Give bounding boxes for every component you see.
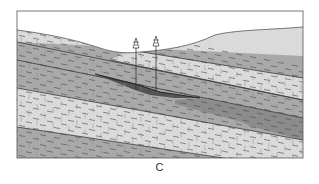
shale-dash	[117, 175, 123, 176]
shale-dash	[12, 179, 18, 180]
shale-dash	[313, 84, 319, 85]
shale-dash	[12, 9, 18, 10]
shale-dash	[103, 182, 109, 183]
shale-dash	[173, 176, 179, 177]
shale-dash	[61, 174, 67, 175]
shale-dash	[313, 144, 319, 145]
shale-dash	[33, 178, 39, 179]
shale-dash	[306, 128, 312, 129]
shale-dash	[257, 183, 263, 184]
shale-dash	[152, 177, 158, 178]
shale-dash	[313, 114, 319, 115]
shale-dash	[180, 183, 186, 184]
shale-dash	[187, 179, 193, 180]
shale-dash	[131, 178, 137, 179]
shale-dash	[243, 180, 249, 181]
shale-dash	[306, 108, 312, 109]
shale-dash	[89, 179, 95, 180]
shale-dash	[306, 98, 312, 99]
shale-dash	[40, 175, 46, 176]
shale-dash	[306, 138, 312, 139]
shale-dash	[159, 173, 165, 174]
shale-dash	[47, 181, 53, 182]
shale-dash	[75, 177, 81, 178]
shale-dash	[292, 175, 298, 176]
shale-dash	[313, 74, 319, 75]
shale-dash	[306, 88, 312, 89]
shale-dash	[208, 178, 214, 179]
shale-dash	[313, 94, 319, 95]
shale-dash	[285, 159, 291, 160]
shale-dash	[222, 181, 228, 182]
shale-dash	[124, 181, 130, 182]
shale-dash	[299, 181, 305, 182]
shale-dash	[236, 174, 242, 175]
shale-dash	[138, 174, 144, 175]
shale-dash	[313, 174, 319, 175]
shale-dash	[19, 175, 25, 176]
cross-section-diagram	[0, 0, 319, 184]
shale-dash	[250, 177, 256, 178]
shale-dash	[306, 148, 312, 149]
figure-caption: C	[0, 161, 319, 173]
shale-dash	[68, 180, 74, 181]
shale-dash	[201, 182, 207, 183]
shale-dash	[264, 179, 270, 180]
shale-dash	[313, 124, 319, 125]
shale-dash	[306, 118, 312, 119]
shale-dash	[229, 177, 235, 178]
shale-dash	[215, 175, 221, 176]
shale-dash	[145, 181, 151, 182]
shale-dash	[313, 154, 319, 155]
shale-dash	[82, 183, 88, 184]
shale-dash	[313, 104, 319, 105]
shale-dash	[285, 179, 291, 180]
shale-dash	[313, 134, 319, 135]
shale-dash	[306, 158, 312, 159]
shale-dash	[96, 176, 102, 177]
shale-dash	[257, 173, 263, 174]
shale-dash	[54, 177, 60, 178]
shale-dash	[194, 175, 200, 176]
shale-dash	[306, 68, 312, 69]
shale-dash	[271, 176, 277, 177]
shale-dash	[166, 180, 172, 181]
shale-dash	[306, 178, 312, 179]
shale-dash	[82, 173, 88, 174]
shale-dash	[306, 78, 312, 79]
shale-dash	[110, 179, 116, 180]
shale-dash	[159, 183, 165, 184]
shale-dash	[278, 182, 284, 183]
shale-dash	[110, 159, 116, 160]
shale-dash	[26, 182, 32, 183]
